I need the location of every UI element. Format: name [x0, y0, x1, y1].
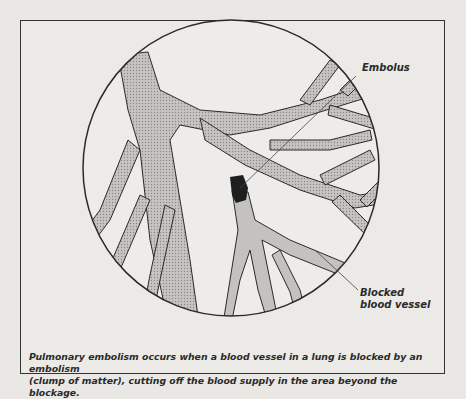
- caption-line-2: (clump of matter), cutting off the blood…: [29, 375, 439, 399]
- vessel-tree: [70, 20, 392, 330]
- blocked-vessel-label: Blocked blood vessel: [360, 287, 430, 311]
- blocked-label-line1: Blocked: [360, 287, 430, 299]
- blocked-label-line2: blood vessel: [360, 299, 430, 311]
- figure-caption: Pulmonary embolism occurs when a blood v…: [29, 351, 439, 399]
- embolus-label: Embolus: [362, 62, 410, 74]
- caption-line-1: Pulmonary embolism occurs when a blood v…: [29, 351, 439, 375]
